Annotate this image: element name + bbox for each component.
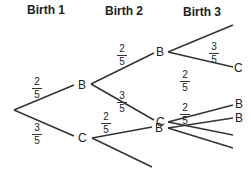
- header-birth-1: Birth 1: [27, 3, 65, 17]
- prob-b-b: 25: [117, 44, 127, 67]
- node-birth2-b: B: [156, 46, 164, 58]
- node-birth1-b: B: [78, 79, 86, 91]
- prob-b-c: 35: [117, 91, 127, 114]
- prob-bb-c: 35: [209, 42, 219, 65]
- prob-cb-b: 25: [180, 103, 190, 126]
- node-birth3-b: B: [235, 98, 243, 110]
- node-birth2-b-lower: B: [155, 122, 163, 134]
- header-birth-3: Birth 3: [183, 5, 221, 19]
- prob-c-b: 25: [101, 112, 111, 135]
- prob-root-c: 35: [32, 123, 42, 146]
- prob-bc-b: 25: [180, 70, 190, 93]
- node-birth3-c: C: [234, 62, 243, 74]
- node-birth1-c: C: [78, 132, 87, 144]
- header-birth-2: Birth 2: [105, 4, 143, 18]
- node-birth3-b-lower: B: [235, 112, 243, 124]
- prob-root-b: 25: [32, 77, 42, 100]
